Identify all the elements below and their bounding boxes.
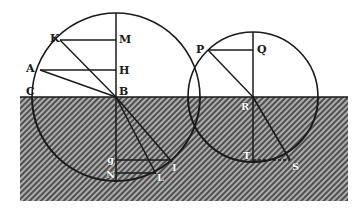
- label-K: K: [50, 32, 60, 45]
- label-R: R: [241, 101, 250, 112]
- label-S: S: [292, 161, 299, 172]
- ray-PR: [208, 50, 253, 97]
- label-A: A: [25, 62, 35, 75]
- label-T: T: [243, 150, 251, 161]
- label-H: H: [119, 64, 129, 77]
- ray-AB: [40, 70, 116, 97]
- label-B: B: [119, 85, 128, 98]
- ray-KB: [60, 40, 116, 97]
- label-L: L: [157, 172, 164, 183]
- label-C: C: [26, 85, 35, 98]
- label-M: M: [119, 33, 131, 46]
- label-N: N: [106, 169, 115, 180]
- dense-medium-region: [20, 97, 348, 201]
- label-G: g: [107, 154, 114, 165]
- label-P: P: [196, 43, 204, 56]
- label-Q: Q: [257, 43, 267, 56]
- label-I: I: [172, 162, 177, 173]
- refraction-diagram: K M A H C B P Q g N L I R T S: [0, 0, 363, 213]
